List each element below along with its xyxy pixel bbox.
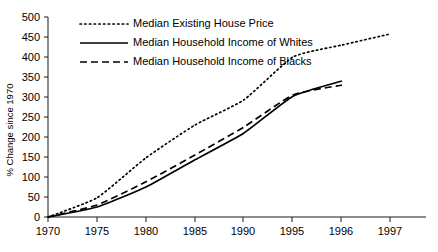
x-tick-label: 1975	[85, 225, 109, 237]
legend-label-median-household-income-of-blacks: Median Household Income of Blacks	[133, 55, 312, 67]
y-tick-label: 500	[22, 11, 40, 23]
x-tick-label: 1990	[231, 225, 255, 237]
legend-label-median-household-income-of-whites: Median Household Income of Whites	[133, 36, 313, 48]
y-tick-label: 350	[22, 71, 40, 83]
y-tick-label: 450	[22, 31, 40, 43]
x-tick-label: 1995	[280, 225, 304, 237]
chart-container: % Change since 1970 0 50 100 150 200 250…	[0, 0, 438, 252]
x-axis-ticks: 1970 1975 1980 1985 1990 1995 1996 1997	[36, 217, 402, 237]
x-tick-label: 1997	[378, 225, 402, 237]
series-line-median-household-income-of-whites	[48, 81, 342, 217]
x-tick-label: 1985	[183, 225, 207, 237]
x-tick-label: 1970	[36, 225, 60, 237]
y-axis-title: % Change since 1970	[4, 84, 15, 177]
x-tick-label: 1980	[134, 225, 158, 237]
chart-legend: Median Existing House Price Median House…	[80, 17, 313, 67]
y-tick-label: 200	[22, 131, 40, 143]
y-tick-label: 300	[22, 91, 40, 103]
y-tick-label: 50	[28, 191, 40, 203]
y-tick-label: 0	[34, 211, 40, 223]
line-chart: % Change since 1970 0 50 100 150 200 250…	[0, 0, 438, 252]
y-axis-ticks: 0 50 100 150 200 250 300 350 400 450 500	[22, 11, 48, 223]
y-tick-label: 250	[22, 111, 40, 123]
series-line-median-household-income-of-blacks	[48, 85, 342, 217]
legend-label-median-existing-house-price: Median Existing House Price	[133, 17, 274, 29]
y-tick-label: 150	[22, 151, 40, 163]
y-tick-label: 400	[22, 51, 40, 63]
x-tick-label: 1996	[329, 225, 353, 237]
y-tick-label: 100	[22, 171, 40, 183]
